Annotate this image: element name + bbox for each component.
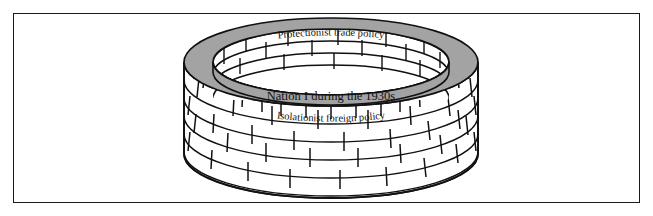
label-nation-center: Nation I during the 1930s <box>267 89 396 103</box>
brick-wall-figure: Protectionist trade policy Nation I duri… <box>0 0 653 216</box>
diagram-canvas: Protectionist trade policy Nation I duri… <box>0 0 653 216</box>
brick-wall-svg: Protectionist trade policy Nation I duri… <box>0 0 653 216</box>
